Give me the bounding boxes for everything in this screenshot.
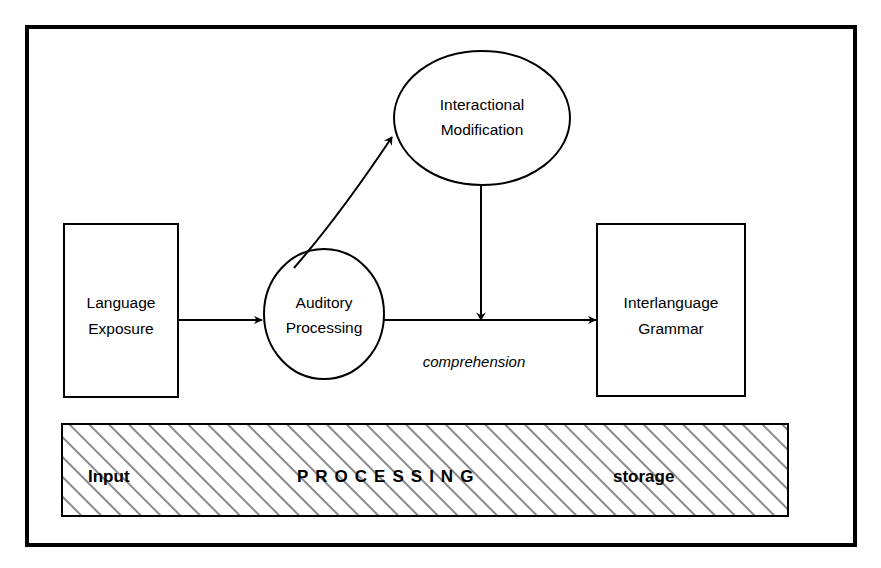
- language-exposure-label-line2: Exposure: [88, 320, 153, 337]
- node-language-exposure: Language Exposure: [64, 224, 178, 397]
- band-label-processing: PROCESSING: [297, 467, 480, 486]
- node-interlanguage-grammar: Interlanguage Grammar: [597, 224, 745, 396]
- language-exposure-label-line1: Language: [87, 294, 156, 311]
- interactional-modification-label-line1: Interactional: [440, 96, 524, 113]
- interlanguage-grammar-label-line1: Interlanguage: [624, 294, 719, 311]
- auditory-processing-ellipse: [264, 249, 384, 379]
- node-auditory-processing: Auditory Processing: [264, 249, 384, 379]
- processing-band: Input PROCESSING storage: [62, 424, 788, 516]
- auditory-processing-label-line1: Auditory: [296, 294, 353, 311]
- interlanguage-grammar-label-line2: Grammar: [638, 320, 703, 337]
- band-label-storage: storage: [613, 467, 674, 486]
- band-label-input: Input: [88, 467, 130, 486]
- edge-label-comprehension: comprehension: [423, 353, 526, 370]
- interactional-modification-ellipse: [394, 51, 570, 185]
- node-interactional-modification: Interactional Modification: [394, 51, 570, 185]
- edge-auditory-to-interactional: [294, 137, 392, 268]
- process-flow-diagram: Language Exposure Auditory Processing In…: [0, 0, 881, 568]
- auditory-processing-label-line2: Processing: [286, 319, 363, 336]
- diagram-canvas: Language Exposure Auditory Processing In…: [0, 0, 881, 568]
- interactional-modification-label-line2: Modification: [441, 121, 524, 138]
